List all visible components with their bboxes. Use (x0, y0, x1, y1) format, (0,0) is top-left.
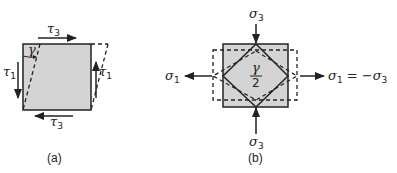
sigma1-left-label: σ1 (165, 68, 180, 85)
sigma3-top-label: σ3 (249, 6, 264, 23)
caption-b: (b) (248, 151, 263, 165)
panel-b: γ 2 σ3 σ3 σ1 σ1 = −σ3 (b) (165, 6, 387, 165)
panel-a: γ τ3 τ3 τ1 τ1 (a) (3, 21, 112, 165)
tau1-right-label: τ1 (99, 64, 112, 81)
tau3-top-label: τ3 (47, 21, 60, 38)
caption-a: (a) (47, 151, 62, 165)
gamma-label: γ (28, 42, 36, 57)
shear-strain-diagram: γ τ3 τ3 τ1 τ1 (a) γ 2 σ3 σ3 σ1 σ1 = −σ3 … (0, 0, 397, 173)
sigma3-bottom-label: σ3 (249, 134, 264, 151)
gamma-numerator: γ (252, 60, 260, 75)
tau1-left-label: τ1 (3, 64, 16, 81)
gamma-denominator: 2 (252, 76, 260, 90)
sigma1-right-label: σ1 = −σ3 (328, 68, 387, 85)
